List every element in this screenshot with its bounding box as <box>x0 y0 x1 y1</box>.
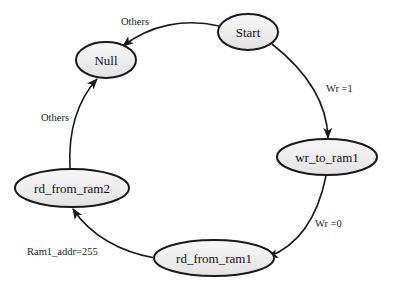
node-label: wr_to_ram1 <box>295 150 359 165</box>
node-label: Start <box>236 25 261 40</box>
edge-wr_to_ram1-to-rd_from_ram1: Wr =0 <box>268 176 342 257</box>
node-start: Start <box>218 14 278 50</box>
edge-label: Others <box>121 16 149 27</box>
edge-rd_from_ram2-to-null: Others <box>41 79 97 169</box>
edge-label: Others <box>41 112 69 123</box>
edge-rd_from_ram1-to-rd_from_ram2: Ram1_addr=255 <box>27 209 155 258</box>
edge-path <box>70 79 97 169</box>
edge-label: Ram1_addr=255 <box>27 246 98 257</box>
node-rd_from_ram2: rd_from_ram2 <box>15 169 129 207</box>
node-wr_to_ram1: wr_to_ram1 <box>277 139 377 175</box>
node-label: rd_from_ram1 <box>176 251 252 266</box>
edge-path <box>268 176 326 257</box>
edge-path <box>272 44 328 138</box>
edge-start-to-null: Others <box>121 16 219 46</box>
edge-start-to-wr_to_ram1: Wr =1 <box>272 44 353 138</box>
node-null: Null <box>76 42 136 78</box>
node-label: Null <box>94 53 118 68</box>
node-rd_from_ram1: rd_from_ram1 <box>154 240 274 276</box>
node-label: rd_from_ram2 <box>34 181 110 196</box>
edge-label: Wr =1 <box>326 83 353 94</box>
edge-label: Wr =0 <box>315 218 342 229</box>
state-diagram: Others Wr =1 Wr =0 Ram1_addr=255 Others … <box>0 0 397 295</box>
